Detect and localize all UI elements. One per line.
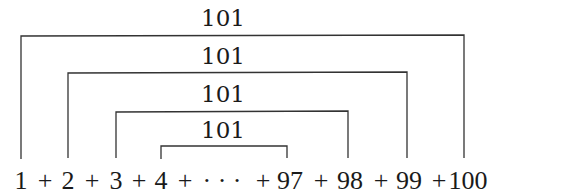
- term-3: 3: [110, 166, 123, 195]
- term-4: 4: [155, 166, 168, 195]
- plus-operator: +: [132, 166, 147, 195]
- plus-operator: +: [314, 166, 329, 195]
- term-97: 97: [277, 166, 303, 195]
- plus-operator: +: [38, 166, 53, 195]
- pair-sum-label: 101: [201, 5, 245, 31]
- plus-operator: +: [374, 166, 389, 195]
- equation: 1 + 2 + 3 + 4 + · · · + 97 + 98 + 99 + 1…: [15, 166, 488, 195]
- pair-sum-label: 101: [201, 43, 245, 69]
- pairing-diagram: 101 101 101 101 1 + 2 + 3 + 4 + · · · + …: [0, 0, 573, 196]
- plus-operator: +: [178, 166, 193, 195]
- term-99: 99: [396, 166, 422, 195]
- term-1: 1: [15, 166, 28, 195]
- plus-operator: +: [85, 166, 100, 195]
- term-98: 98: [337, 166, 363, 195]
- bracket-line: [161, 146, 287, 159]
- plus-operator: +: [256, 166, 271, 195]
- pair-sum-label: 101: [201, 81, 245, 107]
- term-2: 2: [62, 166, 75, 195]
- pair-sum-label: 101: [201, 117, 245, 143]
- plus-operator: +: [432, 166, 447, 195]
- term-100: 100: [449, 166, 488, 195]
- bracket-pair-4-97: 101: [161, 117, 287, 159]
- ellipsis: · · ·: [203, 166, 242, 195]
